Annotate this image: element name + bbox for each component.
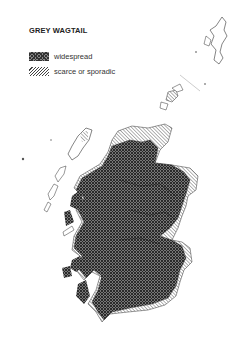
shetland-islands (204, 17, 227, 64)
distribution-map (0, 0, 241, 345)
orkney-islands (160, 84, 183, 110)
